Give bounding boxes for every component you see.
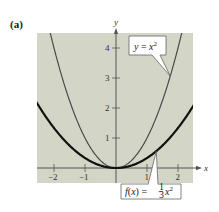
y-tick-label: 4 — [105, 43, 110, 53]
x-tick-label: 1 — [145, 172, 150, 182]
y-tick-label: 3 — [105, 73, 110, 83]
y-axis-arrow-icon — [114, 28, 118, 34]
chart: (a) xy−2−1121234 y = x2f(x) = 13x2 — [0, 0, 219, 212]
panel-label: (a) — [10, 18, 23, 31]
x-axis-label: x — [203, 163, 208, 173]
callout-f-of-x-label: f(x) = — [125, 186, 147, 198]
x-tick-label: 2 — [176, 172, 181, 182]
x-axis-arrow-icon — [196, 166, 202, 170]
fraction-denominator: 3 — [159, 189, 164, 200]
x-tick-label: −2 — [48, 172, 58, 182]
x-tick-label: −1 — [79, 172, 89, 182]
y-tick-label: 1 — [105, 133, 110, 143]
y-tick-label: 2 — [105, 103, 110, 113]
y-axis-label: y — [113, 17, 118, 27]
